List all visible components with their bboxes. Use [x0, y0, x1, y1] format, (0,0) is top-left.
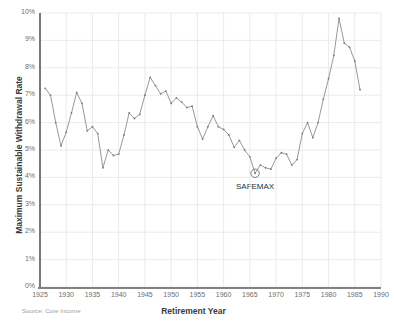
data-point [118, 153, 120, 155]
data-point [92, 126, 94, 128]
data-point [86, 130, 88, 132]
data-point [228, 134, 230, 136]
data-point [275, 157, 277, 159]
data-point [76, 92, 78, 94]
data-point [343, 42, 345, 44]
data-point [312, 137, 314, 139]
data-point [191, 105, 193, 107]
data-point [155, 85, 157, 87]
data-point [217, 126, 219, 128]
data-point [291, 164, 293, 166]
data-point [144, 94, 146, 96]
data-point [134, 118, 136, 120]
data-point [160, 93, 162, 95]
data-point [238, 140, 240, 142]
data-point [265, 167, 267, 169]
data-point [81, 103, 83, 105]
data-point [139, 113, 141, 115]
data-point [212, 115, 214, 117]
data-point [128, 112, 130, 114]
data-point [286, 153, 288, 155]
data-point [102, 167, 104, 169]
data-point [65, 131, 67, 133]
data-point [359, 89, 361, 91]
data-point [338, 18, 340, 20]
data-point [60, 145, 62, 147]
data-point [71, 112, 73, 114]
data-point [317, 122, 319, 124]
data-point [186, 107, 188, 109]
data-point [55, 122, 57, 124]
data-point [97, 133, 99, 135]
data-point [280, 152, 282, 154]
data-point [113, 155, 115, 157]
data-point [181, 101, 183, 103]
data-point [196, 126, 198, 128]
data-point [44, 87, 46, 89]
data-point [207, 126, 209, 128]
data-point [307, 122, 309, 124]
data-point [249, 156, 251, 158]
data-point [254, 172, 256, 174]
data-point [176, 97, 178, 99]
data-point [149, 76, 151, 78]
data-point [333, 55, 335, 57]
data-point [322, 98, 324, 100]
data-point [296, 159, 298, 161]
data-point [354, 60, 356, 62]
data-point [244, 149, 246, 151]
data-point [123, 134, 125, 136]
data-point [349, 46, 351, 48]
data-point [259, 164, 261, 166]
data-point [223, 129, 225, 131]
data-point [170, 103, 172, 105]
data-point [202, 138, 204, 140]
data-point [107, 149, 109, 151]
data-point [301, 133, 303, 135]
data-point [165, 90, 167, 92]
data-point [328, 78, 330, 80]
data-point [50, 94, 52, 96]
data-point [270, 168, 272, 170]
data-point [233, 146, 235, 148]
